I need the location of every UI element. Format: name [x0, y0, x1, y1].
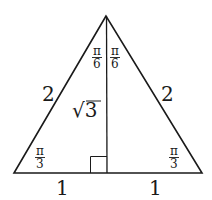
svg-text:π: π [36, 144, 44, 158]
svg-text:π: π [93, 44, 101, 58]
svg-text:π: π [111, 44, 119, 58]
apex-right-angle-label: π 6 [110, 44, 120, 71]
svg-text:3: 3 [170, 157, 178, 171]
svg-text:3: 3 [36, 157, 44, 171]
bottom-right-angle-label: π 3 [169, 144, 179, 171]
right-side-label: 2 [161, 82, 174, 106]
base-left-label: 1 [56, 176, 69, 200]
apex-left-angle-label: π 6 [92, 44, 102, 71]
svg-text:6: 6 [93, 57, 101, 71]
diagram-svg: 2 2 √3 1 1 π 6 π 6 π 3 π 3 [0, 0, 212, 200]
right-angle-marker [91, 157, 108, 174]
base-right-label: 1 [149, 176, 162, 200]
left-side-label: 2 [42, 82, 55, 106]
altitude-line [107, 16, 108, 173]
svg-text:6: 6 [111, 57, 119, 71]
triangle-diagram: 2 2 √3 1 1 π 6 π 6 π 3 π 3 [0, 0, 212, 200]
altitude-label: √3 [72, 98, 97, 122]
svg-text:π: π [170, 144, 178, 158]
bottom-left-angle-label: π 3 [35, 144, 45, 171]
